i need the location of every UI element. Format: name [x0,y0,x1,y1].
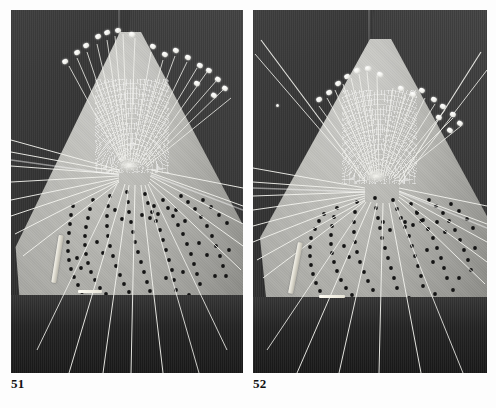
plate-caption-52: 52 [253,376,267,392]
photograph-52 [253,10,487,373]
pin-head [365,66,371,71]
thread-lines-51 [11,10,243,373]
photo-plate-51 [11,10,243,373]
thread-lines-52 [253,10,487,373]
bobbin-tip-51 [78,290,102,293]
photo-plate-52 [253,10,487,373]
photograph-51 [11,10,243,373]
bobbin-tip-52 [319,295,345,298]
book-page: 51 52 [0,0,496,408]
plate-caption-51: 51 [11,376,25,392]
